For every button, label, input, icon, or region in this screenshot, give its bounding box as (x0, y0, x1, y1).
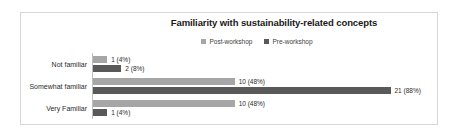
category-group-somewhat-familiar: Somewhat familiar 10 (48%) 21 (88%) (92, 75, 432, 97)
bar-row-pre-workshop-very-familiar: 1 (4%) (93, 109, 130, 116)
legend-label-pre-workshop: Pre-workshop (272, 38, 312, 45)
bar-row-post-workshop-somewhat-familiar: 10 (48%) (93, 78, 265, 85)
category-group-very-familiar: Very Familiar 10 (48%) 1 (4%) (92, 97, 432, 119)
plot-area: Not familiar 1 (4%) 2 (8%) Somewhat fami… (92, 53, 432, 119)
bar-post-workshop-very-familiar[interactable] (93, 100, 235, 107)
bar-label-post-workshop-somewhat-familiar: 10 (48%) (239, 78, 265, 85)
bar-row-pre-workshop-somewhat-familiar: 21 (88%) (93, 87, 421, 94)
bar-row-pre-workshop-not-familiar: 2 (8%) (93, 65, 144, 72)
bar-label-post-workshop-not-familiar: 1 (4%) (111, 56, 130, 63)
bar-pre-workshop-very-familiar[interactable] (93, 109, 107, 116)
category-label-somewhat-familiar: Somewhat familiar (29, 83, 87, 90)
category-label-very-familiar: Very Familiar (46, 105, 87, 112)
chart-legend: Post-workshop Pre-workshop (21, 38, 437, 45)
bar-row-post-workshop-not-familiar: 1 (4%) (93, 56, 130, 63)
legend-swatch-post-workshop (201, 39, 206, 44)
bar-label-pre-workshop-somewhat-familiar: 21 (88%) (395, 87, 421, 94)
bar-label-post-workshop-very-familiar: 10 (48%) (239, 100, 265, 107)
bar-label-pre-workshop-very-familiar: 1 (4%) (111, 109, 130, 116)
legend-item-pre-workshop[interactable]: Pre-workshop (264, 38, 312, 45)
chart-container: Familiarity with sustainability-related … (20, 12, 438, 125)
category-label-not-familiar: Not familiar (52, 61, 87, 68)
legend-item-post-workshop[interactable]: Post-workshop (201, 38, 252, 45)
category-group-not-familiar: Not familiar 1 (4%) 2 (8%) (92, 53, 432, 75)
bar-pre-workshop-not-familiar[interactable] (93, 65, 121, 72)
bar-row-post-workshop-very-familiar: 10 (48%) (93, 100, 265, 107)
bar-post-workshop-somewhat-familiar[interactable] (93, 78, 235, 85)
legend-swatch-pre-workshop (264, 39, 269, 44)
bar-post-workshop-not-familiar[interactable] (93, 56, 107, 63)
legend-label-post-workshop: Post-workshop (209, 38, 252, 45)
bar-label-pre-workshop-not-familiar: 2 (8%) (125, 65, 144, 72)
chart-title: Familiarity with sustainability-related … (21, 17, 427, 28)
bar-pre-workshop-somewhat-familiar[interactable] (93, 87, 391, 94)
